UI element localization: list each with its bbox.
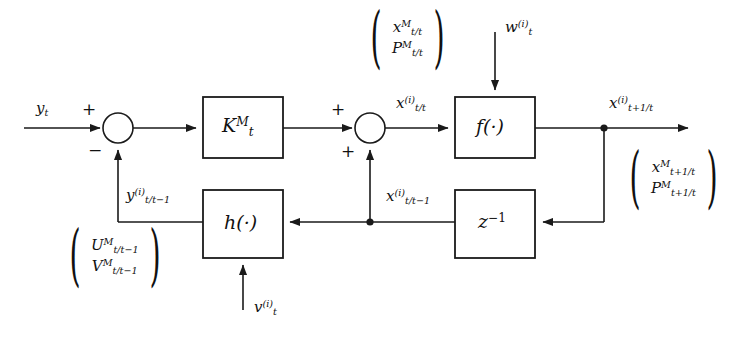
state-transition-label-text: f(·)	[476, 115, 504, 137]
sum1-minus-sign: −	[88, 142, 102, 159]
process-noise-text: w(i)t	[505, 18, 532, 36]
measurement-noise-text: v(i)t	[254, 298, 277, 316]
filtered-moments-row-1: PMt/t	[392, 39, 423, 57]
right-paren: )	[149, 228, 160, 283]
innovation-moments-rows: UMt/t−1 VMt/t−1	[84, 236, 146, 275]
innovation-moments-row-0: UMt/t−1	[91, 236, 139, 254]
predicted-moments-rows: xMt+1/t PMt+1/t	[644, 158, 703, 197]
block-diagram-figure: KMt f(·) h(·) z−1 yt x(i)t/t x(i)t+1/t x…	[0, 0, 752, 341]
unit-delay-label-text: z−1	[478, 210, 506, 232]
predicted-moments-vector: ( xMt+1/t PMt+1/t )	[626, 158, 721, 197]
kalman-gain-label: KMt	[222, 116, 254, 135]
sum2-plus-top-sign: +	[331, 101, 345, 118]
left-paren: (	[69, 228, 80, 283]
right-paren: )	[706, 150, 717, 205]
filtered-moments-rows: xMt/t PMt/t	[385, 18, 430, 57]
delayed-state-label: x(i)t/t−1	[386, 189, 430, 204]
kalman-gain-label-text: KMt	[222, 114, 254, 136]
measurement-function-label: h(·)	[224, 213, 257, 232]
predicted-output-text: y(i)t/t−1	[126, 186, 170, 204]
predicted-state-text: x(i)t+1/t	[609, 94, 653, 112]
summing-junction-state-update	[355, 113, 385, 143]
delayed-state-text: x(i)t/t−1	[386, 187, 430, 205]
innovation-moments-vector: ( UMt/t−1 VMt/t−1 )	[66, 236, 163, 275]
unit-delay-label: z−1	[478, 212, 506, 231]
left-paren: (	[629, 150, 640, 205]
filtered-moments-row-0: xMt/t	[392, 18, 423, 36]
predicted-state-label: x(i)t+1/t	[609, 96, 653, 111]
filtered-moments-vector: ( xMt/t PMt/t )	[367, 18, 448, 57]
left-paren: (	[370, 10, 381, 65]
measurement-function-label-text: h(·)	[224, 211, 257, 233]
process-noise-label: w(i)t	[505, 20, 532, 35]
measurement-noise-label: v(i)t	[254, 300, 277, 315]
input-measurement-text: yt	[36, 99, 48, 117]
predicted-moments-row-1: PMt+1/t	[651, 179, 696, 197]
innovation-moments-row-1: VMt/t−1	[91, 257, 139, 275]
predicted-moments-row-0: xMt+1/t	[651, 158, 696, 176]
filtered-state-text: x(i)t/t	[396, 94, 426, 112]
right-paren: )	[433, 10, 444, 65]
filtered-state-label: x(i)t/t	[396, 96, 426, 111]
predicted-output-label: y(i)t/t−1	[126, 188, 170, 203]
sum1-plus-sign: +	[82, 101, 96, 118]
sum2-plus-bottom-sign: +	[341, 143, 355, 160]
state-transition-label: f(·)	[476, 117, 504, 136]
input-measurement-label: yt	[36, 101, 48, 116]
summing-junction-innovation	[103, 113, 133, 143]
